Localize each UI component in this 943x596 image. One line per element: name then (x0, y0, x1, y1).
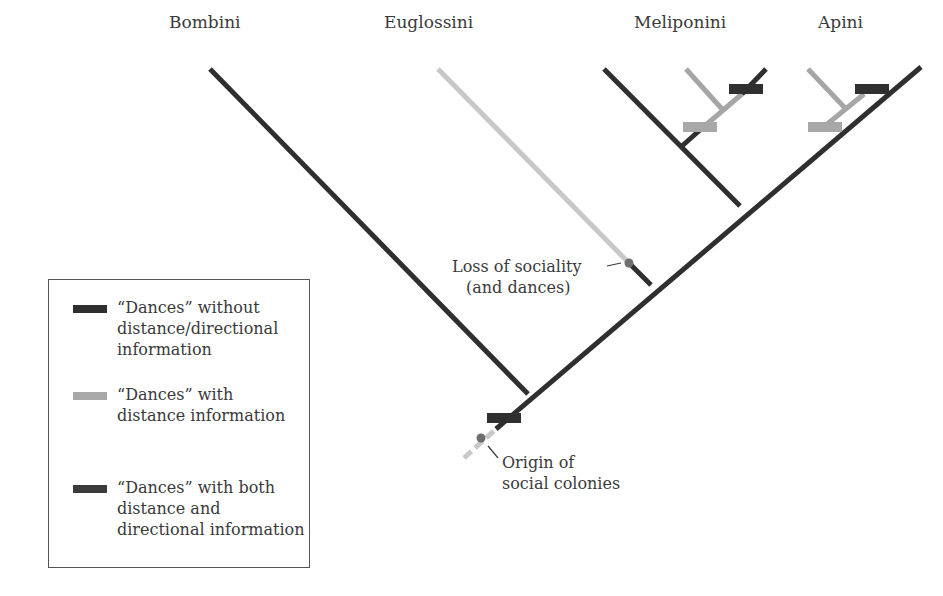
euglossini-branch (438, 69, 628, 262)
loss-line2: (and dances) (452, 277, 582, 298)
origin-line1: Origin of (502, 452, 620, 473)
swatch-gray-icon (73, 392, 107, 400)
legend-text: “Dances” with (117, 384, 285, 405)
legend-item-both: “Dances” with both distance and directio… (73, 477, 304, 540)
loss-line1: Loss of sociality (452, 256, 582, 277)
legend-text: distance and (117, 498, 304, 519)
origin-annotation: Origin of social colonies (502, 452, 620, 494)
legend-text: distance/directional (117, 318, 278, 339)
swatch-dark-icon (73, 305, 107, 313)
apini-light-tip (808, 69, 846, 109)
origin-leader-line (488, 446, 498, 458)
stem-branch (464, 429, 496, 458)
legend-box: “Dances” without distance/directional in… (48, 279, 310, 568)
swatch-dark-icon (73, 485, 107, 493)
legend-text: “Dances” without (117, 297, 278, 318)
legend-text: “Dances” with both (117, 477, 304, 498)
legend-text: directional information (117, 519, 304, 540)
legend-item-without: “Dances” without distance/directional in… (73, 297, 278, 360)
marker-origin-without (487, 413, 521, 423)
origin-line2: social colonies (502, 473, 620, 494)
origin-dot (477, 434, 486, 443)
loss-of-sociality-annotation: Loss of sociality (and dances) (452, 256, 582, 298)
marker-meliponini-distance (683, 122, 717, 132)
legend-text: information (117, 339, 278, 360)
marker-meliponini-both (729, 84, 763, 94)
loss-of-sociality-dot (625, 259, 634, 268)
legend-item-distance: “Dances” with distance information (73, 384, 285, 426)
meliponini-inner-stem (682, 130, 700, 146)
marker-apini-distance (808, 122, 842, 132)
legend-text: distance information (117, 405, 285, 426)
marker-apini-both (855, 84, 889, 94)
meliponini-light-tip (686, 69, 722, 109)
meliponini-stem (604, 69, 740, 206)
loss-leader-line (607, 263, 621, 266)
